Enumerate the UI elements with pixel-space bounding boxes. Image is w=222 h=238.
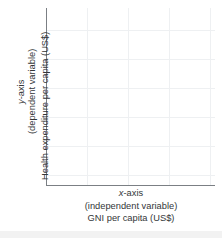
y-axis-role-label: y-axis bbox=[17, 80, 26, 104]
gridline-vertical bbox=[128, 8, 129, 185]
chart-figure: y-axis (dependent variable) Health expen… bbox=[0, 0, 222, 238]
gridline-horizontal bbox=[47, 88, 215, 89]
y-axis-variable-type-label: (dependent variable) bbox=[28, 49, 37, 134]
plot-area bbox=[47, 8, 215, 185]
gridline-vertical bbox=[169, 8, 170, 185]
x-axis-role-label: x-axis bbox=[47, 187, 215, 200]
y-axis-role-suffix: -axis bbox=[16, 80, 26, 100]
gridline-horizontal bbox=[47, 117, 215, 118]
x-axis-line bbox=[46, 185, 215, 186]
gridline-horizontal bbox=[47, 175, 215, 176]
gridline-vertical bbox=[87, 8, 88, 185]
x-axis-role-suffix: -axis bbox=[124, 188, 144, 198]
x-axis-title: GNI per capita (US$) bbox=[47, 212, 215, 225]
gridline-vertical bbox=[210, 8, 211, 185]
gridline-horizontal bbox=[47, 146, 215, 147]
page-bottom-band bbox=[0, 231, 222, 238]
y-axis-title: Health expenditure per capita (US$) bbox=[41, 32, 50, 180]
x-axis-label-group: x-axis (independent variable) GNI per ca… bbox=[47, 187, 215, 225]
gridline-horizontal bbox=[47, 59, 215, 60]
x-axis-variable-type-label: (independent variable) bbox=[47, 200, 215, 213]
gridline-horizontal bbox=[47, 30, 215, 31]
y-axis-label-group: y-axis (dependent variable) Health expen… bbox=[0, 0, 46, 186]
y-axis-italic-symbol: y bbox=[16, 99, 26, 104]
